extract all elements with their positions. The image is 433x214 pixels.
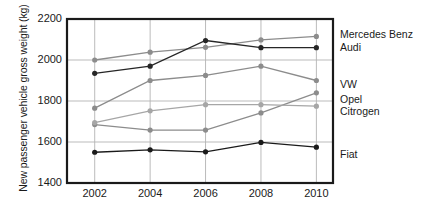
line-chart: New passenger vehicle gross weight (kg) … xyxy=(0,0,433,214)
data-point xyxy=(314,104,319,109)
data-point xyxy=(92,150,97,155)
series-label-vw: VW xyxy=(340,78,357,90)
data-point xyxy=(314,78,319,83)
data-point xyxy=(92,120,97,125)
data-point xyxy=(148,78,153,83)
data-point xyxy=(203,149,208,154)
data-point xyxy=(258,37,263,42)
data-point xyxy=(148,50,153,55)
data-point xyxy=(148,108,153,113)
data-point xyxy=(314,90,319,95)
series-label-fiat: Fiat xyxy=(340,148,358,160)
x-axis-tick-label: 2002 xyxy=(74,187,116,199)
data-point xyxy=(314,45,319,50)
data-point xyxy=(314,145,319,150)
data-point xyxy=(258,45,263,50)
data-point xyxy=(258,102,263,107)
data-point xyxy=(203,45,208,50)
x-axis-tick-label: 2004 xyxy=(129,187,171,199)
x-axis-tick-label: 2006 xyxy=(185,187,227,199)
data-point xyxy=(92,106,97,111)
data-point xyxy=(203,128,208,133)
series-label-mercedes-benz: Mercedes Benz xyxy=(340,28,413,40)
series-label-audi: Audi xyxy=(340,41,361,53)
data-point xyxy=(314,34,319,39)
data-point xyxy=(92,71,97,76)
data-point xyxy=(203,38,208,43)
data-point xyxy=(148,128,153,133)
data-point xyxy=(92,57,97,62)
data-point xyxy=(148,64,153,69)
x-axis-tick-label: 2008 xyxy=(240,187,282,199)
data-point xyxy=(258,140,263,145)
x-axis-tick-label: 2010 xyxy=(295,187,337,199)
series-label-citrogen: Citrogen xyxy=(340,105,380,117)
data-point xyxy=(258,64,263,69)
data-point xyxy=(203,102,208,107)
data-point xyxy=(148,147,153,152)
data-point xyxy=(203,73,208,78)
data-point xyxy=(258,110,263,115)
series-label-opel: Opel xyxy=(340,93,362,105)
